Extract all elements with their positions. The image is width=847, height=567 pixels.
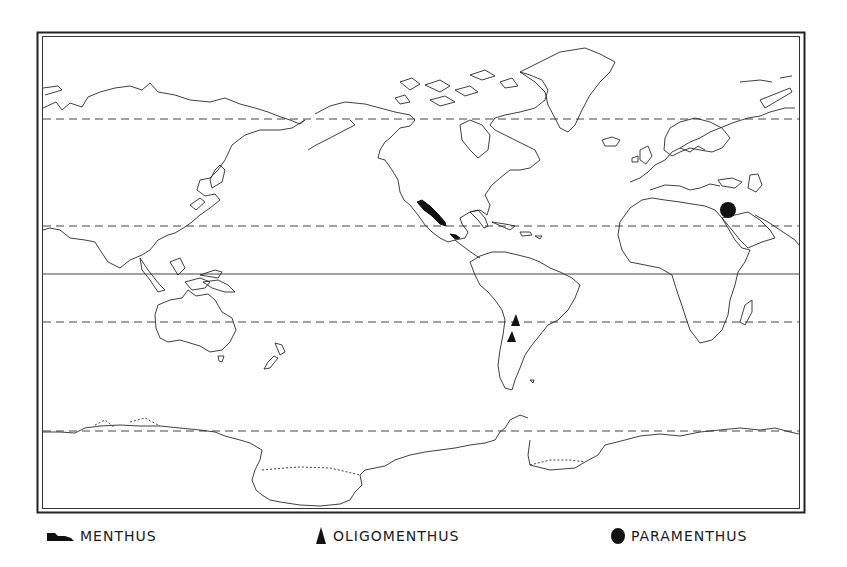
new-zealand <box>264 343 285 369</box>
antarctica-west <box>43 425 320 506</box>
british-isles <box>632 146 652 164</box>
florida <box>470 210 488 228</box>
tasmania <box>218 356 224 362</box>
menthus-range-southern-mexico <box>450 234 460 239</box>
novaya-zemlya <box>740 76 792 108</box>
paramenthus-dot <box>720 202 736 218</box>
north-asia-coast <box>43 83 305 124</box>
legend-label-menthus: MENTHUS <box>80 528 157 544</box>
falklands <box>530 380 534 383</box>
arabia <box>722 212 799 248</box>
australia <box>155 290 236 352</box>
legend-label-oligomenthus: OLIGOMENTHUS <box>333 528 459 544</box>
paramenthus-sites <box>720 202 736 218</box>
arctic-islands <box>395 70 518 106</box>
north-america-west-coast <box>378 158 455 242</box>
outer-frame <box>38 33 805 513</box>
inner-frame <box>43 37 800 509</box>
central-america <box>455 222 542 258</box>
ice-shelf-east <box>95 418 160 428</box>
hudson-bay <box>460 120 490 158</box>
legend-item-paramenthus: PARAMENTHUS <box>610 524 747 548</box>
legend-item-oligomenthus: OLIGOMENTHUS <box>314 524 459 548</box>
triangle-icon <box>314 526 328 546</box>
east-asia-coast <box>43 227 185 268</box>
legend-item-menthus: MENTHUS <box>45 524 157 548</box>
world-distribution-map <box>0 0 847 520</box>
shaded-area-icon <box>45 529 75 543</box>
scandinavia <box>664 118 730 156</box>
legend-label-paramenthus: PARAMENTHUS <box>631 528 747 544</box>
south-america <box>470 252 580 390</box>
africa <box>618 198 750 343</box>
new-guinea <box>203 280 235 292</box>
japan <box>190 165 225 210</box>
oligomenthus-sites <box>507 314 520 342</box>
latitude-lines <box>43 119 799 431</box>
north-america-east <box>455 72 548 240</box>
antarctica-east <box>528 428 799 470</box>
coastlines <box>43 48 799 506</box>
black-caspian <box>718 174 762 192</box>
dot-icon <box>610 527 626 545</box>
menthus-range <box>417 200 460 239</box>
oligomenthus-triangle-1 <box>511 314 520 326</box>
alaska-coast <box>308 102 415 158</box>
ice-shelf-weddell <box>530 460 585 465</box>
menthus-range-western-mexico <box>417 200 446 226</box>
iceland <box>602 137 620 146</box>
oligomenthus-triangle-2 <box>507 331 516 342</box>
ice-shelf-ross <box>262 467 360 475</box>
europe-coast <box>630 108 795 190</box>
antarctica-peninsula <box>320 415 528 506</box>
madagascar <box>740 300 752 325</box>
kamchatka-coast <box>185 120 305 227</box>
